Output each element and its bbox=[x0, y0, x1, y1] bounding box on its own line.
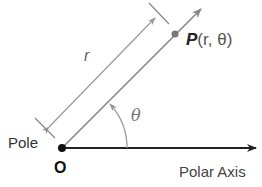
origin-label: O bbox=[54, 160, 66, 176]
polar-axis-label: Polar Axis bbox=[179, 164, 246, 179]
point-p-label: P(r, θ) bbox=[186, 31, 232, 48]
radius-ray bbox=[62, 9, 201, 148]
radius-label: r bbox=[84, 48, 89, 64]
point-p-dot bbox=[172, 31, 179, 38]
point-name: P bbox=[186, 30, 197, 49]
point-coordinates: (r, θ) bbox=[197, 30, 232, 49]
pole-label: Pole bbox=[8, 135, 38, 150]
angle-arc bbox=[110, 104, 127, 148]
polar-diagram: Pole O Polar Axis r θ P(r, θ) bbox=[0, 0, 262, 187]
angle-label: θ bbox=[131, 108, 141, 124]
origin-dot bbox=[58, 144, 66, 152]
diagram-graphics bbox=[0, 0, 262, 187]
